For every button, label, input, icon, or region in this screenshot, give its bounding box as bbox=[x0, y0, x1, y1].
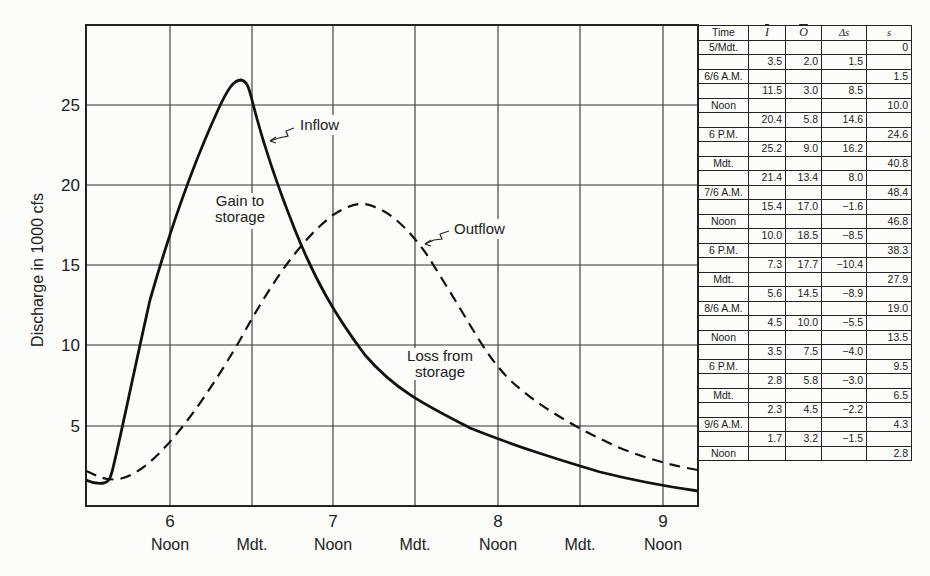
cell-delta-storage bbox=[822, 40, 867, 55]
gain-label-2: storage bbox=[215, 208, 265, 225]
cell-time bbox=[699, 200, 749, 215]
cell-outflow bbox=[786, 417, 822, 432]
cell-storage bbox=[867, 55, 912, 70]
x-axis: 6 Noon Mdt. 7 Noon Mdt. 8 Noon Mdt. 9 No… bbox=[151, 512, 682, 553]
inflow-curve bbox=[86, 80, 698, 491]
cell-inflow bbox=[749, 417, 786, 432]
cell-outflow bbox=[786, 214, 822, 229]
cell-time bbox=[699, 229, 749, 244]
cell-delta-storage: −10.4 bbox=[822, 258, 867, 273]
header-storage: s bbox=[867, 26, 912, 41]
cell-inflow bbox=[749, 214, 786, 229]
cell-delta-storage bbox=[822, 156, 867, 171]
table-row: 21.413.48.0 bbox=[699, 171, 912, 186]
cell-storage: 6.5 bbox=[867, 388, 912, 403]
storage-table: Time I O Δs s 5/Mdt.03.52.01.56/6 A.M.1.… bbox=[698, 25, 911, 461]
cell-delta-storage bbox=[822, 98, 867, 113]
cell-time: Mdt. bbox=[699, 388, 749, 403]
cell-outflow: 5.8 bbox=[786, 374, 822, 389]
table-row: Noon13.5 bbox=[699, 330, 912, 345]
cell-outflow: 17.0 bbox=[786, 200, 822, 215]
cell-delta-storage bbox=[822, 388, 867, 403]
cell-outflow bbox=[786, 69, 822, 84]
table-row: 10.018.5−8.5 bbox=[699, 229, 912, 244]
cell-outflow bbox=[786, 243, 822, 258]
cell-inflow bbox=[749, 359, 786, 374]
y-tick: 10 bbox=[61, 336, 80, 355]
table-row: 6 P.M.24.6 bbox=[699, 127, 912, 142]
cell-outflow: 5.8 bbox=[786, 113, 822, 128]
cell-storage: 0 bbox=[867, 40, 912, 55]
cell-storage bbox=[867, 403, 912, 418]
cell-delta-storage: 16.2 bbox=[822, 142, 867, 157]
cell-storage bbox=[867, 316, 912, 331]
cell-outflow bbox=[786, 185, 822, 200]
cell-time: 6 P.M. bbox=[699, 359, 749, 374]
cell-delta-storage bbox=[822, 127, 867, 142]
cell-time bbox=[699, 345, 749, 360]
table-row: 3.52.01.5 bbox=[699, 55, 912, 70]
table-header-row: Time I O Δs s bbox=[699, 26, 912, 41]
table-row: 9/6 A.M.4.3 bbox=[699, 417, 912, 432]
cell-inflow bbox=[749, 127, 786, 142]
cell-delta-storage: −4.0 bbox=[822, 345, 867, 360]
cell-inflow: 7.3 bbox=[749, 258, 786, 273]
cell-storage: 46.8 bbox=[867, 214, 912, 229]
cell-time: 7/6 A.M. bbox=[699, 185, 749, 200]
table-row: 6 P.M.9.5 bbox=[699, 359, 912, 374]
cell-outflow: 2.0 bbox=[786, 55, 822, 70]
cell-inflow bbox=[749, 243, 786, 258]
table-row: 2.34.5−2.2 bbox=[699, 403, 912, 418]
cell-inflow: 2.8 bbox=[749, 374, 786, 389]
gain-label-1: Gain to bbox=[216, 192, 264, 209]
cell-delta-storage bbox=[822, 359, 867, 374]
cell-delta-storage: −8.5 bbox=[822, 229, 867, 244]
x-tick-label: Mdt. bbox=[564, 536, 595, 553]
cell-storage bbox=[867, 432, 912, 447]
cell-delta-storage bbox=[822, 301, 867, 316]
cell-storage: 38.3 bbox=[867, 243, 912, 258]
x-tick-day: 6 bbox=[165, 512, 174, 531]
cell-outflow: 18.5 bbox=[786, 229, 822, 244]
table-row: 8/6 A.M.19.0 bbox=[699, 301, 912, 316]
cell-time: Noon bbox=[699, 330, 749, 345]
x-tick-label: Noon bbox=[314, 536, 352, 553]
cell-outflow bbox=[786, 272, 822, 287]
cell-time: Noon bbox=[699, 214, 749, 229]
cell-time bbox=[699, 374, 749, 389]
cell-delta-storage: −3.0 bbox=[822, 374, 867, 389]
cell-storage: 9.5 bbox=[867, 359, 912, 374]
cell-inflow bbox=[749, 98, 786, 113]
cell-inflow: 21.4 bbox=[749, 171, 786, 186]
cell-storage bbox=[867, 113, 912, 128]
table-row: 6/6 A.M.1.5 bbox=[699, 69, 912, 84]
cell-time: Mdt. bbox=[699, 156, 749, 171]
y-tick: 15 bbox=[61, 256, 80, 275]
cell-outflow: 14.5 bbox=[786, 287, 822, 302]
cell-storage bbox=[867, 171, 912, 186]
table-row: Mdt.27.9 bbox=[699, 272, 912, 287]
cell-storage: 13.5 bbox=[867, 330, 912, 345]
cell-inflow bbox=[749, 272, 786, 287]
x-tick-label: Noon bbox=[151, 536, 189, 553]
cell-inflow: 15.4 bbox=[749, 200, 786, 215]
cell-storage: 40.8 bbox=[867, 156, 912, 171]
cell-time bbox=[699, 316, 749, 331]
cell-storage: 4.3 bbox=[867, 417, 912, 432]
outflow-label: Outflow bbox=[454, 220, 505, 237]
table-row: 4.510.0−5.5 bbox=[699, 316, 912, 331]
cell-time: 9/6 A.M. bbox=[699, 417, 749, 432]
cell-time: Mdt. bbox=[699, 272, 749, 287]
cell-time: 5/Mdt. bbox=[699, 40, 749, 55]
cell-delta-storage bbox=[822, 330, 867, 345]
cell-outflow bbox=[786, 330, 822, 345]
cell-outflow bbox=[786, 388, 822, 403]
cell-time: 6 P.M. bbox=[699, 243, 749, 258]
cell-delta-storage: −5.5 bbox=[822, 316, 867, 331]
cell-inflow: 3.5 bbox=[749, 55, 786, 70]
table-row: Mdt.40.8 bbox=[699, 156, 912, 171]
cell-inflow: 3.5 bbox=[749, 345, 786, 360]
cell-time: Noon bbox=[699, 98, 749, 113]
cell-storage: 24.6 bbox=[867, 127, 912, 142]
header-delta-storage: Δs bbox=[822, 26, 867, 41]
